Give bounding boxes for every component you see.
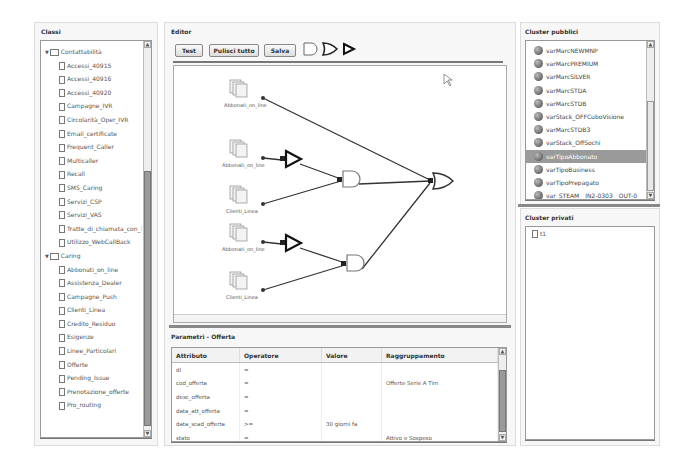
cell-attributo[interactable]: data_scad_offerta (172, 417, 240, 431)
scroll-down-arrow[interactable]: ▼ (499, 434, 506, 441)
scroll-thumb[interactable] (647, 101, 654, 191)
scroll-thumb[interactable] (499, 370, 506, 432)
cell-attributo[interactable]: stato (172, 431, 240, 442)
tree-item[interactable]: Abbonati_on_line (45, 263, 142, 277)
scroll-thumb[interactable] (144, 171, 151, 426)
tree-item[interactable]: Frequent_Caller (45, 140, 142, 154)
test-button[interactable]: Test (175, 44, 203, 57)
tree-item[interactable]: Utilizzo_WebCallBack (45, 235, 142, 249)
table-row[interactable]: stato=Attivo e Sospeso (172, 431, 498, 442)
tree-folder[interactable]: ▼Caring (45, 249, 142, 263)
or-gate-icon[interactable] (428, 173, 453, 189)
expand-arrow-icon[interactable]: ▼ (45, 49, 49, 55)
table-row[interactable]: data_scad_offerta>=30 giorni fa (172, 417, 498, 431)
cell-attributo[interactable]: cod_offerta (172, 377, 240, 391)
cluster-item[interactable]: varMarcSTDB (526, 97, 646, 110)
cell-attributo[interactable]: dl (172, 363, 240, 377)
cell-attributo[interactable]: desc_offerta (172, 390, 240, 404)
and-gate-tool-icon[interactable] (304, 43, 317, 55)
cluster-item[interactable]: varTipoBusiness (526, 163, 646, 176)
tree-item[interactable]: Pro_routing (45, 398, 142, 412)
cell-raggruppamento[interactable] (382, 417, 498, 431)
cluster-item[interactable]: varMarcNEWMNP (526, 44, 646, 57)
cell-raggruppamento[interactable] (382, 390, 498, 404)
tree-item[interactable]: Email_certificate (45, 127, 142, 141)
col-valore[interactable]: Valore (322, 348, 382, 363)
cluster-pubblici-scrollbar[interactable]: ▲ ▼ (646, 41, 654, 199)
tree-item[interactable]: Linee_Particolari (45, 344, 142, 358)
canvas-hscrollbar[interactable] (174, 314, 506, 322)
and-gate-icon[interactable] (337, 171, 360, 187)
cluster-privati-item[interactable]: t1 (526, 227, 654, 241)
class-node-icon[interactable] (230, 272, 247, 289)
not-gate-tool-icon[interactable] (344, 44, 354, 54)
scroll-up-arrow[interactable]: ▲ (647, 41, 654, 48)
cluster-item[interactable]: var_STEAM__IN2-0303__OUT-0 (526, 189, 646, 200)
cell-valore[interactable] (322, 377, 382, 391)
cell-raggruppamento[interactable] (382, 363, 498, 377)
clear-all-button[interactable]: Pulisci tutto (209, 44, 259, 57)
or-gate-tool-icon[interactable] (323, 43, 337, 55)
table-row[interactable]: data_att_offerta= (172, 404, 498, 418)
cluster-item[interactable]: varTipoAbbonato (526, 150, 646, 163)
cluster-item[interactable]: varMarcPREMIUM (526, 57, 646, 70)
cluster-splitter[interactable] (518, 204, 660, 207)
cell-valore[interactable] (322, 390, 382, 404)
cell-valore[interactable]: 30 giorni fa (322, 417, 382, 431)
cell-attributo[interactable]: data_att_offerta (172, 404, 240, 418)
col-operatore[interactable]: Operatore (240, 348, 322, 363)
tree-item[interactable]: Multicaller (45, 154, 142, 168)
tree-item[interactable]: Servizi_CSP (45, 195, 142, 209)
cell-operatore[interactable]: >= (240, 417, 322, 431)
cluster-item[interactable]: varStack_OffSochi (526, 136, 646, 149)
tree-item[interactable]: Esigenze (45, 330, 142, 344)
and-gate-icon[interactable] (341, 255, 364, 271)
tree-item[interactable]: Credito_Residuo (45, 317, 142, 331)
not-gate-icon[interactable] (280, 235, 301, 251)
cluster-item[interactable]: varMarcSTDA (526, 84, 646, 97)
scroll-down-arrow[interactable]: ▼ (647, 192, 654, 199)
cell-operatore[interactable]: = (240, 377, 322, 391)
cell-valore[interactable] (322, 363, 382, 377)
editor-canvas[interactable]: Abbonati_on_line Abbonati_on_line Client… (173, 65, 507, 323)
cell-raggruppamento[interactable]: Offerte Serie A Tim (382, 377, 498, 391)
class-node-icon[interactable] (230, 80, 247, 97)
tree-item[interactable]: Tratte_di_chiamata_con_? (45, 222, 142, 236)
col-attributo[interactable]: Attributo (172, 348, 240, 363)
params-scrollbar[interactable]: ▲ ▼ (498, 348, 506, 441)
cell-raggruppamento[interactable]: Attivo e Sospeso (382, 431, 498, 442)
classi-scrollbar[interactable]: ▲ ▼ (143, 41, 151, 437)
table-row[interactable]: desc_offerta= (172, 390, 498, 404)
tree-item[interactable]: Campagne_Push (45, 290, 142, 304)
tree-item[interactable]: Campagne_IVR (45, 99, 142, 113)
tree-item[interactable]: Accessi_40915 (45, 59, 142, 73)
table-row[interactable]: cod_offerta=Offerte Serie A Tim (172, 377, 498, 391)
class-node-icon[interactable] (230, 224, 247, 241)
save-button[interactable]: Salva (264, 44, 296, 57)
class-node-icon[interactable] (230, 140, 247, 157)
tree-item[interactable]: SMS_Caring (45, 181, 142, 195)
tree-item[interactable]: Clienti_Linea (45, 303, 142, 317)
cell-operatore[interactable]: = (240, 363, 322, 377)
tree-item[interactable]: Pending_Issue (45, 371, 142, 385)
cell-raggruppamento[interactable] (382, 404, 498, 418)
tree-item[interactable]: Circolarità_Oper_IVR (45, 113, 142, 127)
scroll-down-arrow[interactable]: ▼ (144, 430, 151, 437)
cluster-item[interactable]: varTipoPrepagato (526, 176, 646, 189)
scroll-up-arrow[interactable]: ▲ (499, 348, 506, 355)
tree-item[interactable]: Prenotazione_offerte (45, 385, 142, 399)
tree-folder[interactable]: ▼Contattabilità (45, 45, 142, 59)
tree-item[interactable]: Assistenza_Dealer (45, 276, 142, 290)
cluster-item[interactable]: varMarcSTDB3 (526, 123, 646, 136)
cell-valore[interactable] (322, 431, 382, 442)
cluster-item[interactable]: varMarcSILVER (526, 70, 646, 83)
cell-operatore[interactable]: = (240, 390, 322, 404)
tree-item[interactable]: Offerte (45, 358, 142, 372)
class-node-icon[interactable] (230, 186, 247, 203)
col-raggruppamento[interactable]: Raggruppamento (382, 348, 498, 363)
scroll-up-arrow[interactable]: ▲ (144, 41, 151, 48)
cell-operatore[interactable]: = (240, 431, 322, 442)
tree-item[interactable]: Accessi_40916 (45, 72, 142, 86)
cell-operatore[interactable]: = (240, 404, 322, 418)
expand-arrow-icon[interactable]: ▼ (45, 253, 49, 259)
